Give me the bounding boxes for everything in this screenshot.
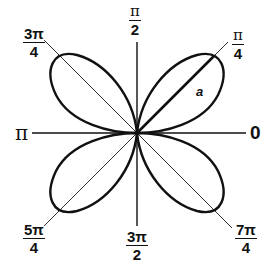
- diagonal-5pi4: [44, 133, 137, 226]
- label-zero: 0: [250, 122, 261, 144]
- label-pi: π: [15, 121, 28, 145]
- petal-q4: [137, 133, 223, 212]
- radius-label: a: [196, 84, 203, 99]
- label-7pi-over-4: 7π 4: [235, 222, 257, 255]
- label-pi-over-2: π 2: [129, 4, 141, 37]
- label-5pi-over-4: 5π 4: [23, 222, 45, 255]
- label-3pi-over-2: 3π 2: [126, 229, 148, 262]
- petal-q2: [51, 54, 137, 133]
- petal-q3: [51, 133, 137, 212]
- label-3pi-over-4: 3π 4: [23, 26, 45, 59]
- label-pi-over-4: π 4: [232, 28, 244, 61]
- diagonal-pi4-ext: [214, 42, 228, 56]
